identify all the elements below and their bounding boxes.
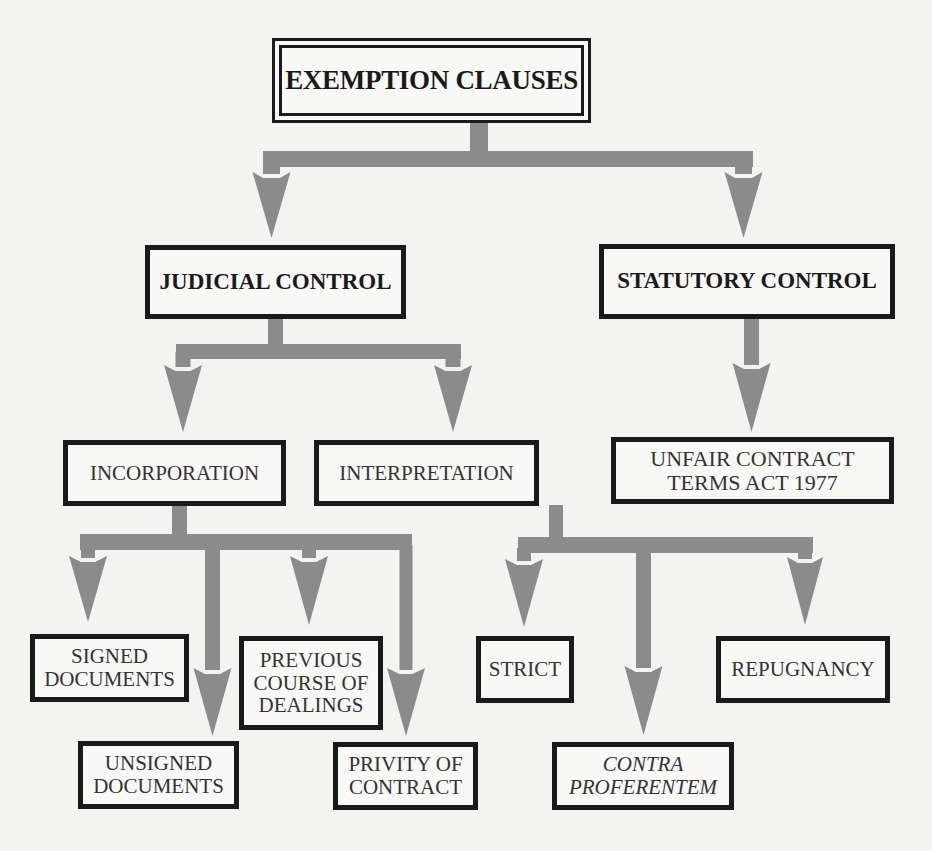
- node-contra-proferentem: CONTRA PROFERENTEM: [552, 742, 734, 810]
- interpretation-bus: [518, 537, 813, 553]
- node-strict: STRICT: [476, 636, 574, 703]
- node-label: INCORPORATION: [90, 462, 259, 485]
- node-signed-documents: SIGNED DOCUMENTS: [30, 634, 189, 702]
- arrow-to-interpretation-arrowhead: [434, 365, 472, 432]
- node-label-line: PRIVITY OF: [348, 753, 462, 776]
- node-incorporation: INCORPORATION: [63, 440, 286, 506]
- root-bus: [263, 151, 753, 167]
- node-label-line: UNSIGNED: [105, 752, 212, 775]
- node-label-line: TERMS ACT 1977: [667, 471, 838, 495]
- node-label-line: CONTRA: [603, 753, 684, 776]
- node-previous-course-of-dealings: PREVIOUS COURSE OF DEALINGS: [239, 636, 383, 730]
- node-judicial-control: JUDICIAL CONTROL: [145, 245, 406, 319]
- node-unsigned-documents: UNSIGNED DOCUMENTS: [78, 741, 239, 809]
- node-label: REPUGNANCY: [731, 658, 875, 681]
- node-label: STATUTORY CONTROL: [617, 269, 877, 294]
- node-label-line: DOCUMENTS: [44, 668, 175, 691]
- node-exemption-clauses: EXEMPTION CLAUSES: [272, 38, 591, 123]
- node-label: EXEMPTION CLAUSES: [285, 66, 578, 95]
- node-interpretation: INTERPRETATION: [314, 440, 539, 506]
- node-label-line: DOCUMENTS: [93, 775, 224, 798]
- arrow-to-statutory-arrowhead: [725, 172, 763, 238]
- node-unfair-contract-terms-act: UNFAIR CONTRACT TERMS ACT 1977: [611, 437, 894, 504]
- arrow-to-signed-arrowhead: [69, 556, 107, 622]
- arrow-to-judicial-stem: [263, 160, 280, 174]
- node-label: JUDICIAL CONTROL: [160, 270, 392, 295]
- arrow-to-incorporation-arrowhead: [164, 365, 202, 432]
- arrow-to-repugnancy-arrowhead: [787, 557, 823, 625]
- node-label-line: DEALINGS: [259, 694, 364, 717]
- arrow-to-ucta-stem: [744, 318, 759, 365]
- arrow-to-unsigned-arrowhead: [194, 668, 232, 736]
- node-label: STRICT: [489, 658, 561, 681]
- arrow-to-repugnancy-stem: [798, 548, 812, 559]
- node-label: INTERPRETATION: [339, 462, 513, 485]
- node-statutory-control: STATUTORY CONTROL: [599, 244, 895, 319]
- arrow-to-contra-stem: [636, 548, 651, 668]
- judicial-stem: [268, 318, 283, 348]
- incorporation-bus: [80, 534, 412, 550]
- arrow-to-signed-stem: [81, 545, 95, 558]
- arrow-to-strict-arrowhead: [505, 559, 543, 627]
- connector-layer: [0, 0, 932, 851]
- node-label-line: COURSE OF: [254, 672, 369, 695]
- root-stem: [470, 122, 488, 156]
- arrow-to-interpretation-stem: [446, 352, 461, 367]
- arrow-to-judicial-arrowhead: [253, 172, 291, 238]
- arrow-to-statutory-stem: [735, 160, 752, 174]
- node-label-line: PREVIOUS: [260, 649, 363, 672]
- node-privity-of-contract: PRIVITY OF CONTRACT: [333, 742, 478, 810]
- node-label-line: UNFAIR CONTRACT: [650, 447, 854, 471]
- arrow-to-unsigned-stem: [205, 545, 220, 670]
- node-label-line: CONTRACT: [349, 776, 462, 799]
- node-label-line: PROFERENTEM: [569, 776, 717, 799]
- arrow-to-privity-arrowhead: [387, 668, 425, 736]
- incorporation-stem: [172, 505, 187, 538]
- judicial-bus: [176, 344, 461, 359]
- node-repugnancy: REPUGNANCY: [716, 636, 890, 703]
- arrow-to-strict-stem: [517, 548, 531, 561]
- interpretation-stem: [549, 505, 563, 541]
- node-label-line: SIGNED: [71, 645, 148, 668]
- arrow-to-ucta-arrowhead: [733, 363, 771, 432]
- arrow-to-previous-arrowhead: [290, 556, 328, 625]
- arrow-to-incorporation-stem: [176, 352, 191, 367]
- arrow-to-privity-stem: [400, 545, 413, 670]
- arrow-to-contra-arrowhead: [625, 666, 663, 735]
- arrow-to-previous-stem: [302, 545, 316, 558]
